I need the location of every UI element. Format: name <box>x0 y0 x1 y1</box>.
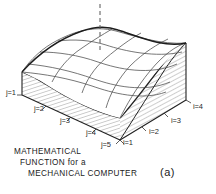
caption-line-1: MATHEMATICAL <box>14 147 81 156</box>
axis-label-i-1: i=1 <box>123 138 133 147</box>
axis-label-i-2: i=2 <box>149 127 159 136</box>
axis-label-j-5: j=5 <box>101 140 111 149</box>
axis-label-j-4: j=4 <box>86 128 96 137</box>
axis-label-i-4: i=4 <box>193 102 203 111</box>
axis-label-j-2: j=2 <box>34 104 44 113</box>
axis-label-j-3: j=3 <box>60 116 70 125</box>
figure-tag: (a) <box>160 166 175 178</box>
figure-mathematical-function: j=1 j=2 j=3 j=4 j=5 i=1 i=2 i=3 i=4 MATH… <box>0 0 216 194</box>
caption-line-2: FUNCTION for a <box>20 158 86 167</box>
caption-line-3: MECHANICAL COMPUTER <box>28 169 137 178</box>
axis-label-j-1: j=1 <box>6 88 16 97</box>
axis-label-i-3: i=3 <box>171 116 181 125</box>
